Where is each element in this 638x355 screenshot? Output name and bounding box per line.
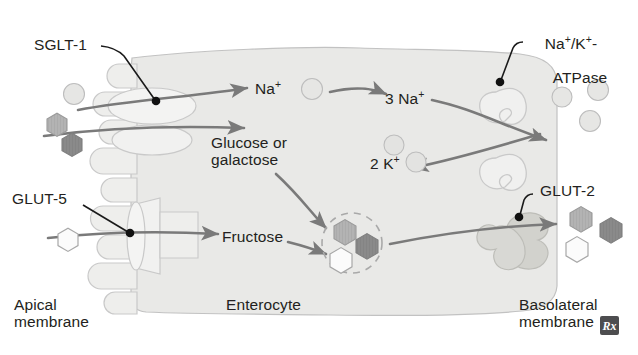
label-fructose: Fructose [222, 228, 283, 245]
leader-dot-atpase [496, 78, 505, 87]
label-enterocyte: Enterocyte [226, 296, 301, 313]
label-sglt1: SGLT-1 [34, 36, 87, 53]
hex-glucose-blood [570, 207, 592, 233]
label-basolateral-membrane: Basolateral membrane [519, 296, 598, 330]
label-2-k: 2 K+ [370, 155, 400, 172]
leader-dot-glut5 [126, 229, 135, 238]
label-glucose-galactose: Glucose or galactose [211, 134, 287, 168]
label-na-apical: Na+ [255, 80, 281, 97]
ion-na-cytosol [302, 79, 323, 100]
atpase-line2: ATPase [553, 69, 608, 86]
ion-na-blood-3 [580, 111, 601, 132]
hex-fructose-cytosol [330, 248, 352, 274]
atpase-line1: Na+/K+- [545, 35, 598, 52]
leader-dot-glut2 [515, 213, 524, 222]
hex-fructose-blood [566, 237, 588, 263]
label-glut5: GLUT-5 [12, 190, 67, 207]
hex-glucose-lumen [47, 113, 67, 136]
ion-k-cytosol-2 [406, 152, 426, 172]
hex-fructose-lumen [58, 228, 78, 251]
label-3-na: 3 Na+ [385, 90, 424, 107]
label-glut2: GLUT-2 [540, 182, 595, 199]
badge-glyph: Rx [602, 320, 616, 332]
publisher-badge-icon: Rx [600, 316, 619, 335]
label-na-k-atpase: Na+/K+- ATPase [527, 18, 607, 103]
hex-galactose-lumen [62, 133, 82, 156]
leader-dot-sglt1 [152, 97, 161, 106]
figure-canvas: SGLT-1 GLUT-5 GLUT-2 Na+/K+- ATPase Na+ … [0, 0, 638, 355]
particle-group-blood-sugars [566, 207, 622, 263]
hex-galactose-blood [600, 218, 622, 244]
ion-na-lumen [64, 84, 85, 105]
label-apical-membrane: Apical membrane [14, 296, 89, 330]
